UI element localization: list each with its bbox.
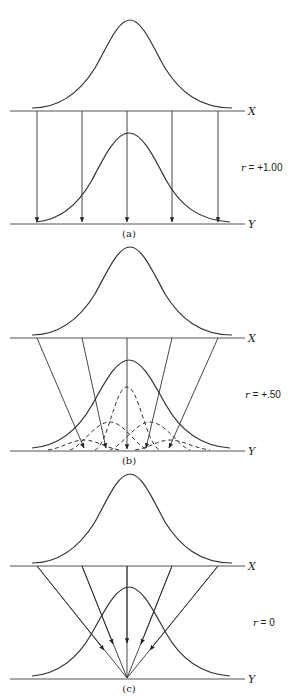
y-axis-label: Y (248, 673, 257, 686)
x-axis-label: X (247, 332, 257, 345)
correlation-diagram: X Y r = +1.00 (a) X Y r = +.50 (b) (0, 0, 291, 697)
mapping-arrowhead (141, 566, 172, 644)
y-distribution-curve (32, 360, 230, 448)
conditional-distribution-curve (48, 440, 120, 450)
correlation-label: r = +1.00 (241, 162, 283, 173)
panel-b: X Y r = +.50 (b) (10, 247, 281, 466)
y-distribution-curve (36, 133, 230, 222)
panel-caption: (a) (122, 228, 136, 239)
panel-caption: (b) (122, 455, 136, 466)
conditional-distribution-curve (70, 422, 148, 450)
panel-caption: (c) (122, 683, 136, 694)
mapping-arrow (82, 338, 106, 448)
x-distribution-curve (32, 20, 232, 108)
panel-c: X Y r = 0 (c) (10, 474, 275, 694)
x-distribution-curve (32, 247, 232, 335)
x-axis-label: X (247, 105, 257, 118)
y-distribution-curve (32, 587, 230, 676)
x-distribution-curve (32, 474, 232, 563)
correlation-label: r = +.50 (245, 389, 281, 400)
mapping-arrow (169, 338, 218, 448)
mapping-arrowhead (150, 566, 218, 650)
mapping-arrow (37, 338, 84, 448)
mapping-arrowhead (37, 566, 104, 650)
y-axis-label: Y (248, 218, 257, 231)
panel-a: X Y r = +1.00 (a) (10, 20, 283, 239)
correlation-label: r = 0 (253, 617, 275, 628)
x-axis-label: X (247, 560, 257, 573)
y-axis-label: Y (248, 445, 257, 458)
